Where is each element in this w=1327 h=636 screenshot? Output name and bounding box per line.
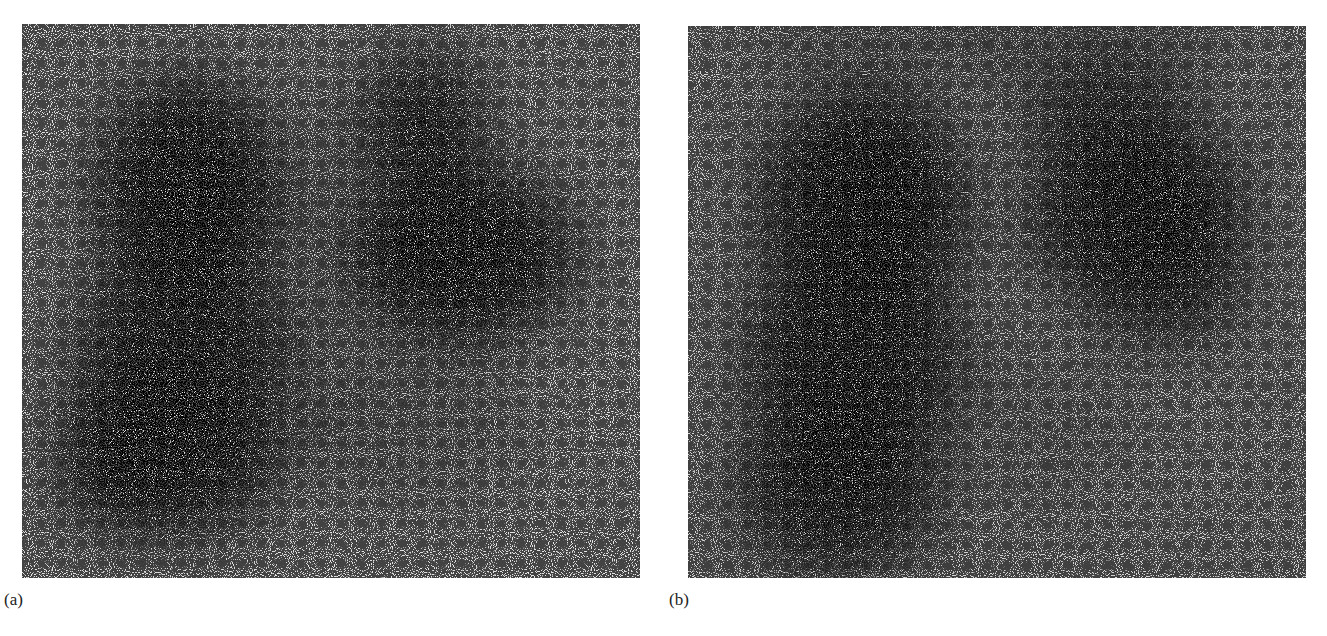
lung-uptake-texture bbox=[22, 24, 640, 578]
scintigraphy-panel-a bbox=[22, 24, 640, 578]
panel-label-a: (a) bbox=[4, 591, 23, 608]
lung-uptake-texture bbox=[688, 26, 1306, 578]
scintigraphy-panel-b bbox=[688, 26, 1306, 578]
panel-label-b: (b) bbox=[669, 591, 689, 608]
scan-image-a bbox=[22, 24, 640, 578]
scan-image-b bbox=[688, 26, 1306, 578]
